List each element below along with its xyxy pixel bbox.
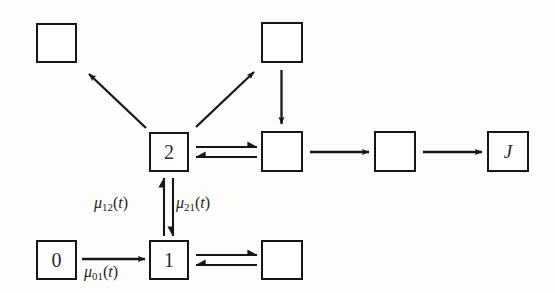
rate-argument: (t) (113, 194, 128, 211)
edge-1-botright (196, 255, 257, 265)
state-node-state_2[interactable]: 2 (149, 132, 189, 172)
rate-symbol: μ (84, 263, 92, 280)
state-node-label: 2 (164, 142, 174, 162)
rate-subscript: 01 (92, 270, 103, 282)
rate-subscript: 12 (102, 201, 113, 213)
rate-subscript: 21 (184, 201, 195, 213)
state-node-top_right[interactable] (261, 22, 303, 63)
rate-label-mu_21: μ21(t) (176, 195, 210, 213)
state-node-state_0[interactable]: 0 (36, 240, 77, 280)
state-node-bot_right[interactable] (261, 240, 303, 280)
rate-argument: (t) (103, 263, 118, 280)
edge-2-to-topright (196, 72, 254, 127)
rate-argument: (t) (195, 194, 210, 211)
state-node-mid_right_2[interactable] (374, 131, 416, 172)
state-node-top_left[interactable] (36, 23, 77, 63)
state-node-label: 1 (164, 250, 174, 270)
state-node-label: 0 (52, 250, 62, 270)
rate-label-mu_12: μ12(t) (94, 195, 128, 213)
rate-label-mu_01: μ01(t) (84, 264, 118, 282)
rate-symbol: μ (176, 194, 184, 211)
edge-2-midright1 (196, 147, 257, 157)
state-node-label: J (504, 142, 512, 161)
rate-symbol: μ (94, 194, 102, 211)
diagram-canvas: 2J01 μ12(t)μ21(t)μ01(t) (0, 0, 555, 293)
edge-1-2-vertical (164, 178, 173, 236)
state-node-mid_right_1[interactable] (261, 131, 303, 172)
state-node-state_1[interactable]: 1 (149, 240, 189, 280)
state-node-state_J[interactable]: J (487, 131, 529, 172)
edge-2-to-topleft (89, 74, 146, 128)
